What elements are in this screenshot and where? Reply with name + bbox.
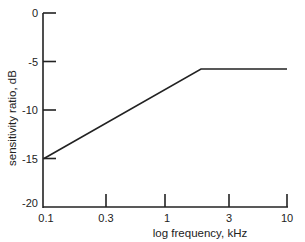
y-tick-label: -10: [22, 104, 38, 116]
x-ticks: [106, 194, 287, 207]
x-tick-label: 0.3: [98, 212, 113, 224]
series-line: [44, 69, 287, 159]
y-ticks: [43, 13, 56, 159]
y-tick-label: 0: [32, 7, 38, 19]
y-tick-label: -20: [22, 197, 38, 209]
x-tick-label: 10: [281, 212, 293, 224]
chart: 0 -5 -10 -15 -20 0.1 0.3 1 3 10 log freq…: [0, 0, 305, 242]
x-tick-label: 1: [164, 212, 170, 224]
y-tick-label: -5: [28, 56, 38, 68]
x-axis-title: log frequency, kHz: [153, 227, 248, 239]
x-tick-label: 3: [226, 212, 232, 224]
y-axis-title: sensitivity ratio, dB: [6, 70, 18, 166]
x-tick-label: 0.1: [38, 212, 53, 224]
y-tick-label: -15: [22, 153, 38, 165]
